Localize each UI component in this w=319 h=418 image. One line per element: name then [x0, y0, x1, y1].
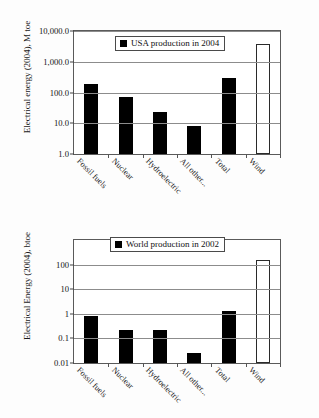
x-tick-label: Wind [247, 157, 266, 176]
bars-container [74, 240, 280, 363]
bar-wind [256, 44, 270, 154]
legend: USA production in 2004 [115, 36, 225, 51]
y-tick-label: 10,000.0 [39, 26, 74, 36]
bar-nuclear [119, 97, 133, 154]
y-tick-label: 100 [56, 260, 74, 270]
gridline [74, 338, 280, 339]
bar-all-other [187, 126, 201, 154]
bar-total [222, 311, 236, 363]
y-tick-label: 1,000.0 [43, 57, 74, 67]
plot-area: 0.010.1110100 [73, 239, 281, 364]
y-tick-label: 0.01 [54, 358, 74, 368]
bar-nuclear [119, 330, 133, 363]
y-tick-label: 10 [60, 284, 74, 294]
legend-label: USA production in 2004 [131, 38, 219, 48]
gridline [74, 265, 280, 266]
gridline [74, 93, 280, 94]
y-tick-label: 0.1 [58, 333, 74, 343]
gridline [74, 289, 280, 290]
x-axis-labels: Fossil fuelsNuclearHydroelectricAll othe… [73, 367, 281, 417]
gridline [74, 123, 280, 124]
bar-all-other [187, 353, 201, 363]
legend-label: World production in 2002 [126, 239, 219, 249]
x-tick-label: Fossil fuels [75, 157, 109, 191]
gridline [74, 62, 280, 63]
bar-fossil-fuels [84, 84, 98, 154]
legend: World production in 2002 [110, 237, 225, 252]
x-tick-label: Wind [247, 366, 266, 385]
x-tick-label: Total [213, 157, 231, 175]
chart-usa-production-2004: Electrical energy (2004), M toe 1.010.01… [0, 0, 319, 209]
gridline [74, 314, 280, 315]
bar-wind [256, 260, 270, 363]
figure-page: Electrical energy (2004), M toe 1.010.01… [0, 0, 319, 418]
y-axis-title: Electrical energy (2004), M toe [22, 2, 32, 152]
y-tick-label: 100.0 [50, 88, 74, 98]
y-axis-title: Electrical Energy (2004), btoe [22, 211, 32, 361]
y-tick-label: 1.0 [58, 149, 74, 159]
legend-swatch-icon [115, 241, 122, 248]
x-tick-label: Nuclear [110, 157, 135, 182]
x-tick-label: Nuclear [110, 366, 135, 391]
x-axis-labels: Fossil fuelsNuclearHydroelectricAll othe… [73, 158, 281, 208]
x-tick-label: All other... [178, 157, 210, 189]
legend-swatch-icon [120, 40, 127, 47]
x-tick-label: Fossil fuels [75, 366, 109, 400]
bar-hydroelectric [153, 112, 167, 154]
y-tick-label: 1 [65, 309, 74, 319]
x-tick-label: All other... [178, 366, 210, 398]
chart-world-production-2002: Electrical Energy (2004), btoe 0.010.111… [0, 209, 319, 418]
gridline [74, 31, 280, 32]
bar-total [222, 78, 236, 154]
y-tick-label: 10.0 [54, 118, 74, 128]
x-tick-label: Total [213, 366, 231, 384]
bar-hydroelectric [153, 330, 167, 363]
